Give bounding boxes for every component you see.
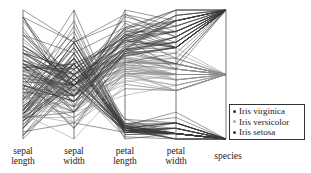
axis-label-line: species bbox=[206, 151, 250, 161]
axis-label-line: length bbox=[103, 156, 147, 166]
legend-marker-icon bbox=[233, 120, 236, 123]
axis-label-line: width bbox=[52, 156, 96, 166]
legend-item-virginica: Iris virginica bbox=[232, 106, 302, 117]
axis-label-line: width bbox=[154, 156, 198, 166]
legend-label: Iris virginica bbox=[239, 106, 285, 116]
legend-marker-icon bbox=[233, 110, 236, 113]
axis-label-sepal-width: sepal width bbox=[52, 146, 96, 166]
legend-label: Iris versicolor bbox=[239, 117, 289, 127]
legend-marker-icon bbox=[233, 131, 236, 134]
axis-label-petal-length: petal length bbox=[103, 146, 147, 166]
axis-label-line: length bbox=[1, 156, 45, 166]
legend-label: Iris setosa bbox=[239, 127, 275, 137]
axis-label-petal-width: petal width bbox=[154, 146, 198, 166]
axis-label-line: sepal bbox=[1, 146, 45, 156]
axis-label-sepal-length: sepal length bbox=[1, 146, 45, 166]
axis-label-line: petal bbox=[154, 146, 198, 156]
axis-label-species: species bbox=[206, 151, 250, 161]
axis-label-line: sepal bbox=[52, 146, 96, 156]
data-lines bbox=[23, 10, 226, 139]
legend-item-versicolor: Iris versicolor bbox=[232, 117, 302, 128]
legend: Iris virginica Iris versicolor Iris seto… bbox=[229, 104, 305, 140]
axis-label-line: petal bbox=[103, 146, 147, 156]
legend-item-setosa: Iris setosa bbox=[232, 127, 302, 138]
